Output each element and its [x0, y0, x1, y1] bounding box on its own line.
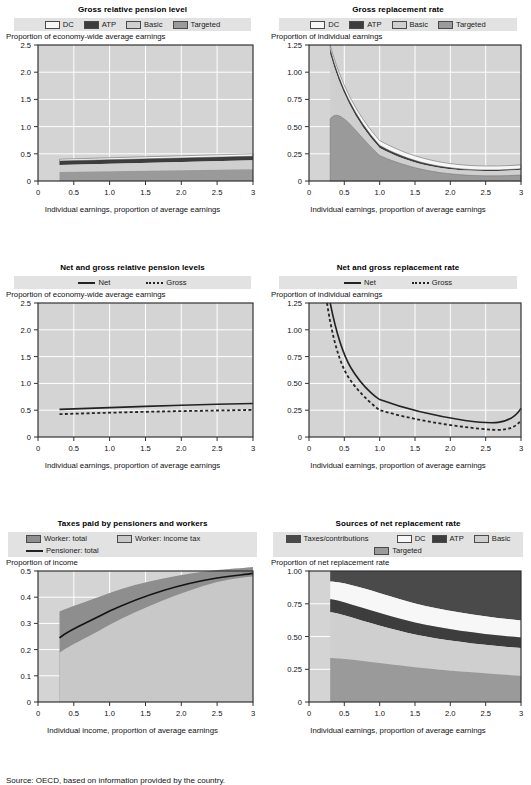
- stacked-areas: [330, 571, 521, 702]
- panel-legend: Net Gross: [279, 276, 517, 289]
- y-tick-label: 2.0: [20, 326, 31, 335]
- y-tick-labels: 0 0.5 1.0 1.5 2.0 2.5: [20, 41, 31, 186]
- y-tick-label: 0: [27, 698, 31, 707]
- legend-swatch-dc: [397, 535, 412, 543]
- panel-title: Net and gross relative pension levels: [0, 258, 265, 272]
- source-note: Source: OECD, based on information provi…: [6, 776, 225, 785]
- y-tick-marks: [305, 571, 309, 702]
- x-tick-label: 0.5: [339, 444, 350, 453]
- x-tick-label: 3: [519, 188, 523, 197]
- y-tick-label: 0: [298, 177, 302, 186]
- legend-item-atp[interactable]: ATP: [84, 20, 116, 29]
- x-axis-label: Individual earnings, proportion of avera…: [0, 205, 265, 214]
- x-tick-label: 2.5: [212, 444, 223, 453]
- y-tick-labels: 0 0.25 0.50 0.75 1.00 1.25: [287, 41, 302, 186]
- legend-swatch-atp: [84, 21, 99, 29]
- plot-area: 0 0.25 0.50 0.75 1.00 1.25 0 0.5 1.0 1.5…: [265, 41, 531, 206]
- x-tick-label: 1.0: [104, 709, 115, 718]
- legend-label: ATP: [102, 20, 116, 29]
- legend-label: DC: [63, 20, 74, 29]
- legend-item-worker-income-tax[interactable]: Worker: income tax: [117, 534, 200, 543]
- legend-label: Basic: [492, 534, 511, 543]
- x-tick-label: 2.0: [176, 444, 187, 453]
- x-tick-labels: 0 0.5 1.0 1.5 2.0 2.5 3: [307, 444, 523, 453]
- x-tick-label: 0.5: [69, 188, 80, 197]
- y-tick-label: 0.75: [287, 353, 302, 362]
- legend-item-dc[interactable]: DC: [397, 534, 426, 543]
- legend-item-net[interactable]: Net: [344, 278, 376, 287]
- x-tick-label: 2.5: [480, 444, 491, 453]
- legend-item-atp[interactable]: ATP: [432, 534, 464, 543]
- panel-legend: Net Gross: [14, 276, 251, 289]
- panel-legend: Taxes/contributions DC ATP Basic Targete…: [273, 532, 523, 557]
- legend-item-dc[interactable]: DC: [45, 20, 74, 29]
- legend-item-basic[interactable]: Basic: [126, 20, 163, 29]
- y-tick-label: 0.25: [287, 665, 302, 674]
- x-tick-label: 2.0: [176, 188, 187, 197]
- x-tick-label: 1.5: [140, 188, 151, 197]
- legend-item-taxes-contributions[interactable]: Taxes/contributions: [286, 534, 369, 543]
- x-tick-label: 0: [307, 444, 311, 453]
- y-tick-labels: 0 0.25 0.50 0.75 1.00: [287, 567, 302, 707]
- y-tick-label: 1.5: [20, 95, 31, 104]
- legend-swatch-atp: [349, 21, 364, 29]
- panel-net-and-gross-replacement-rate: Net and gross replacement rate Net Gross…: [265, 258, 531, 514]
- x-tick-label: 2.5: [212, 709, 223, 718]
- x-tick-labels: 0 0.5 1.0 1.5 2.0 2.5 3: [36, 709, 255, 718]
- panel-legend: Worker: total Worker: income tax Pension…: [8, 532, 257, 557]
- x-tick-label: 1.0: [374, 188, 385, 197]
- x-axis-label: Individual income, proportion of average…: [0, 726, 265, 735]
- y-tick-label: 1.25: [287, 299, 302, 308]
- legend-label: Targeted: [456, 20, 486, 29]
- legend-label: Basic: [410, 20, 429, 29]
- y-tick-label: 0: [27, 433, 31, 442]
- panel-gross-relative-pension-level: Gross relative pension level DC ATP Basi…: [0, 0, 265, 258]
- x-tick-label: 0: [36, 709, 40, 718]
- x-tick-marks: [309, 437, 521, 441]
- x-tick-label: 2.0: [445, 709, 456, 718]
- legend-label: Targeted: [191, 20, 221, 29]
- x-tick-label: 1.0: [374, 444, 385, 453]
- x-tick-label: 2.5: [480, 709, 491, 718]
- legend-label: Worker: total: [44, 534, 87, 543]
- x-tick-label: 0: [36, 188, 40, 197]
- y-axis-label: Proportion of individual earnings: [265, 32, 531, 41]
- y-tick-label: 1.00: [287, 326, 302, 335]
- y-tick-marks: [305, 45, 309, 181]
- legend-item-atp[interactable]: ATP: [349, 20, 381, 29]
- y-axis-label: Proportion of individual earnings: [265, 290, 531, 299]
- y-tick-label: 1.0: [20, 379, 31, 388]
- legend-item-targeted[interactable]: Targeted: [173, 20, 221, 29]
- legend-item-basic[interactable]: Basic: [392, 20, 429, 29]
- y-axis-label: Proportion of economy-wide average earni…: [0, 32, 265, 41]
- legend-swatch-worker-total: [26, 535, 41, 543]
- x-tick-marks: [309, 181, 521, 185]
- legend-item-targeted[interactable]: Targeted: [374, 546, 422, 555]
- legend-label: Net: [98, 278, 110, 287]
- y-tick-labels: 0 0.1 0.2 0.3 0.4 0.5: [20, 567, 31, 707]
- legend-item-worker-total[interactable]: Worker: total: [26, 534, 87, 543]
- y-tick-labels: 0 0.5 1.0 1.5 2.0 2.5: [20, 299, 31, 442]
- x-tick-label: 2.5: [212, 188, 223, 197]
- legend-label: Targeted: [392, 546, 422, 555]
- legend-label: Gross: [166, 278, 186, 287]
- legend-item-net[interactable]: Net: [78, 278, 110, 287]
- y-tick-label: 0: [298, 433, 302, 442]
- legend-item-dc[interactable]: DC: [310, 20, 339, 29]
- legend-swatch-dc: [45, 21, 60, 29]
- legend-item-gross[interactable]: Gross: [412, 278, 452, 287]
- y-tick-label: 1.00: [287, 68, 302, 77]
- legend-item-gross[interactable]: Gross: [146, 278, 186, 287]
- legend-swatch-atp: [432, 535, 447, 543]
- y-tick-label: 0.75: [287, 600, 302, 609]
- x-axis-label: Individual earnings, proportion of avera…: [265, 205, 531, 214]
- legend-item-targeted[interactable]: Targeted: [438, 20, 486, 29]
- x-tick-labels: 0 0.5 1.0 1.5 2.0 2.5 3: [307, 188, 523, 197]
- legend-item-pensioner-total[interactable]: Pensioner: total: [26, 546, 253, 555]
- y-tick-label: 0.50: [287, 123, 302, 132]
- panel-title: Taxes paid by pensioners and workers: [0, 514, 265, 528]
- x-tick-label: 1.5: [410, 709, 421, 718]
- legend-item-basic[interactable]: Basic: [474, 534, 511, 543]
- plot-area: 0 0.5 1.0 1.5 2.0 2.5 0 0.5 1.0 1.5 2.0 …: [0, 299, 265, 462]
